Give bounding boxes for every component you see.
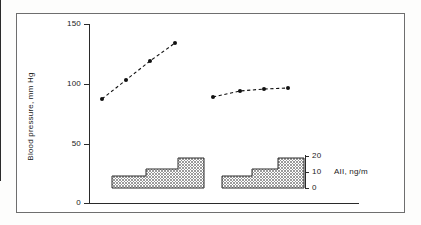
panel-divider-line bbox=[0, 0, 1, 181]
figure-frame bbox=[16, 13, 405, 213]
figure-container: 150 100 50 0 Blood pressure, mm Hg bbox=[0, 0, 421, 225]
